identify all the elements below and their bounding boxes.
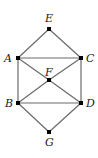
node-D	[79, 101, 83, 105]
label-G: G	[45, 136, 54, 149]
edge-C-F	[49, 58, 81, 80]
node-B	[16, 101, 20, 105]
label-E: E	[44, 12, 53, 25]
node-E	[47, 27, 51, 31]
edge-E-A	[18, 29, 49, 58]
label-C: C	[86, 52, 95, 65]
label-F: F	[44, 66, 53, 79]
edge-D-G	[49, 103, 81, 132]
node-A	[16, 56, 20, 60]
edge-B-G	[18, 103, 49, 132]
graph-diagram: E A C F B D G	[0, 0, 98, 158]
nodes	[16, 27, 83, 134]
edge-F-D	[49, 80, 81, 103]
node-C	[79, 56, 83, 60]
label-D: D	[85, 97, 95, 110]
edge-F-B	[18, 80, 49, 103]
label-A: A	[3, 52, 12, 65]
label-B: B	[4, 97, 13, 110]
edge-E-C	[49, 29, 81, 58]
node-G	[47, 130, 51, 134]
